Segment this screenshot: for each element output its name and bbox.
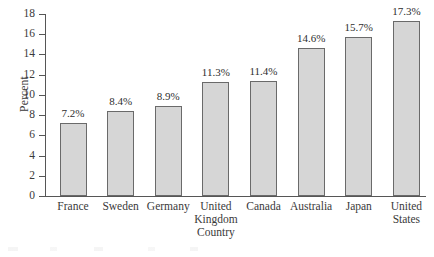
- x-axis-tick-label: Sweden: [97, 200, 145, 213]
- bar-value-label: 8.4%: [109, 96, 132, 107]
- scan-artifact: [8, 247, 208, 251]
- y-axis-tick-label: 18: [0, 8, 35, 20]
- bar: [155, 106, 182, 196]
- x-axis-tick-label: Japan: [335, 200, 383, 213]
- bar-group: 17.3%: [393, 14, 420, 196]
- bar-group: 7.2%: [60, 14, 87, 196]
- x-axis-title: Country: [171, 226, 261, 238]
- y-axis-tick: [39, 196, 45, 197]
- x-axis-tick-label: France: [49, 200, 97, 213]
- y-axis-tick-label: 12: [0, 69, 35, 81]
- bar-group: 11.4%: [250, 14, 277, 196]
- y-axis-tick-label: 6: [0, 129, 35, 141]
- bar-value-label: 15.7%: [345, 22, 373, 33]
- y-axis-tick-label: 8: [0, 109, 35, 121]
- bar: [60, 123, 87, 196]
- bar-value-label: 11.4%: [249, 66, 277, 77]
- x-axis-tick-label: Canada: [240, 200, 288, 213]
- x-axis-tick-label: United Kingdom: [192, 200, 240, 226]
- bar: [107, 111, 134, 196]
- y-axis-tick-label: 10: [0, 89, 35, 101]
- bar-group: 8.4%: [107, 14, 134, 196]
- bar: [202, 82, 229, 196]
- bar-group: 8.9%: [155, 14, 182, 196]
- y-axis-tick-label: 16: [0, 28, 35, 40]
- x-axis-tick-label: Germany: [144, 200, 192, 213]
- bar-chart: Percent 024681012141618 7.2%8.4%8.9%11.3…: [0, 0, 434, 257]
- x-axis-tick-label: United States: [383, 200, 431, 226]
- plot-area: 7.2%8.4%8.9%11.3%11.4%14.6%15.7%17.3%: [45, 14, 426, 196]
- y-axis-tick-label: 4: [0, 150, 35, 162]
- bar-value-label: 7.2%: [62, 108, 85, 119]
- bar-group: 11.3%: [202, 14, 229, 196]
- bar: [298, 48, 325, 196]
- x-axis-line: [45, 196, 426, 197]
- y-axis-tick-label: 2: [0, 170, 35, 182]
- bar-value-label: 11.3%: [202, 67, 230, 78]
- bar-value-label: 14.6%: [297, 33, 325, 44]
- bar-group: 15.7%: [345, 14, 372, 196]
- bar-group: 14.6%: [298, 14, 325, 196]
- y-axis-tick-label: 14: [0, 48, 35, 60]
- y-axis-tick-label: 0: [0, 190, 35, 202]
- bar: [250, 81, 277, 196]
- bar: [345, 37, 372, 196]
- bar: [393, 21, 420, 196]
- bar-value-label: 17.3%: [392, 6, 420, 17]
- x-axis-tick-label: Australia: [287, 200, 335, 213]
- bar-value-label: 8.9%: [157, 91, 180, 102]
